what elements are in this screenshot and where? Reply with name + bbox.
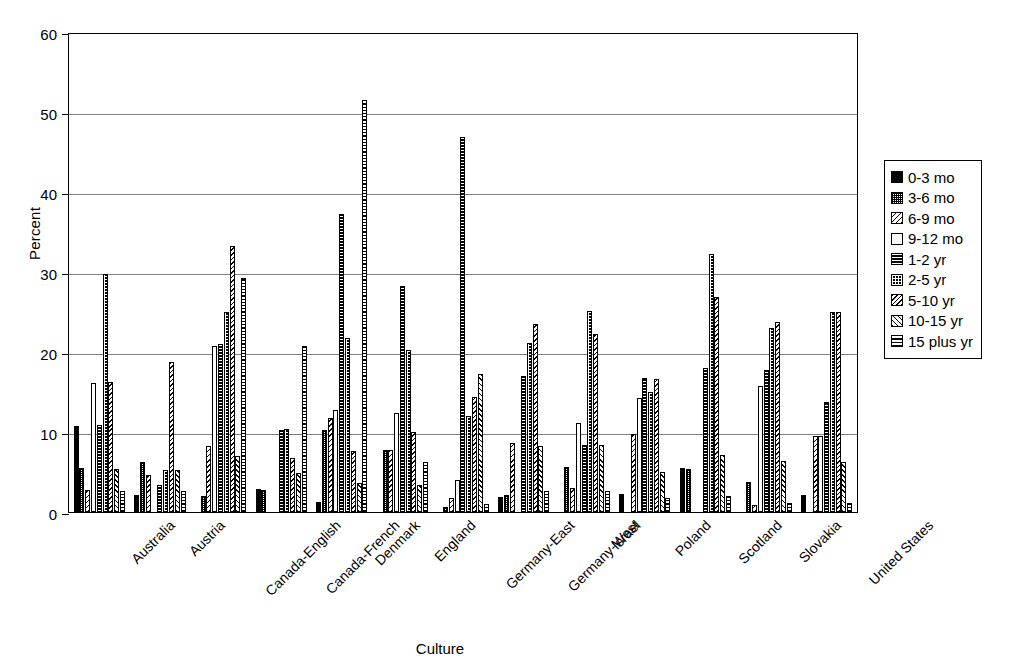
bar-group bbox=[372, 34, 433, 512]
plot-area: 0102030405060 bbox=[68, 33, 858, 513]
y-axis-tick-label: 10 bbox=[40, 426, 57, 443]
bar bbox=[241, 278, 246, 512]
bar bbox=[478, 374, 483, 512]
bar-group bbox=[614, 34, 675, 512]
bar bbox=[484, 504, 489, 512]
bar bbox=[74, 426, 79, 512]
x-axis-tick-label: Poland bbox=[671, 517, 713, 559]
bar bbox=[631, 434, 636, 512]
bar-group bbox=[311, 34, 372, 512]
bar bbox=[279, 430, 284, 512]
legend-label: 10-15 yr bbox=[908, 313, 963, 328]
legend-item: 15 plus yr bbox=[891, 331, 973, 352]
bar bbox=[383, 450, 388, 512]
bar bbox=[818, 436, 823, 512]
bar bbox=[841, 462, 846, 512]
bar bbox=[703, 368, 708, 512]
bar bbox=[504, 495, 509, 512]
y-axis-tick-label: 30 bbox=[40, 266, 57, 283]
bar bbox=[206, 446, 211, 512]
legend-label: 2-5 yr bbox=[908, 272, 946, 287]
bar bbox=[212, 346, 217, 512]
chart-canvas: Percent 0102030405060 AustraliaAustriaCa… bbox=[0, 0, 1029, 672]
bar bbox=[781, 461, 786, 512]
y-axis-tick bbox=[62, 354, 69, 355]
y-axis-tick-label: 60 bbox=[40, 26, 57, 43]
y-axis-tick-label: 40 bbox=[40, 186, 57, 203]
bar bbox=[108, 382, 113, 512]
legend-item: 3-6 mo bbox=[891, 188, 973, 209]
bar bbox=[388, 450, 393, 512]
bar bbox=[218, 344, 223, 512]
legend-item: 1-2 yr bbox=[891, 249, 973, 270]
bar bbox=[256, 489, 261, 512]
bar-group bbox=[493, 34, 554, 512]
bar-group bbox=[190, 34, 251, 512]
bar bbox=[181, 491, 186, 512]
bar bbox=[605, 491, 610, 512]
bar bbox=[91, 383, 96, 512]
bar bbox=[836, 312, 841, 512]
bar bbox=[230, 246, 235, 512]
bar bbox=[328, 418, 333, 512]
bar bbox=[120, 491, 125, 512]
bar-group bbox=[433, 34, 494, 512]
legend-label: 0-3 mo bbox=[908, 170, 955, 185]
bar-group bbox=[69, 34, 130, 512]
bar bbox=[103, 274, 108, 512]
legend: 0-3 mo3-6 mo6-9 mo9-12 mo1-2 yr2-5 yr5-1… bbox=[884, 160, 982, 359]
bar bbox=[538, 446, 543, 512]
bar bbox=[527, 343, 532, 512]
bar bbox=[224, 312, 229, 512]
legend-swatch-icon bbox=[891, 192, 903, 204]
bar bbox=[752, 505, 757, 512]
bar bbox=[333, 410, 338, 512]
legend-swatch-icon bbox=[891, 335, 903, 347]
bar bbox=[146, 475, 151, 512]
bar-group bbox=[675, 34, 736, 512]
bar bbox=[587, 311, 592, 512]
legend-item: 5-10 yr bbox=[891, 290, 973, 311]
bar bbox=[544, 491, 549, 512]
bar bbox=[449, 498, 454, 512]
bar bbox=[498, 497, 503, 512]
legend-swatch-icon bbox=[891, 171, 903, 183]
bar bbox=[357, 483, 362, 512]
bar bbox=[775, 322, 780, 512]
bar bbox=[764, 370, 769, 512]
legend-swatch-icon bbox=[891, 233, 903, 245]
legend-swatch-icon bbox=[891, 274, 903, 286]
bar bbox=[720, 455, 725, 512]
bar bbox=[157, 485, 162, 512]
bar bbox=[769, 328, 774, 512]
bar bbox=[637, 398, 642, 512]
bar-group bbox=[554, 34, 615, 512]
y-axis-tick bbox=[62, 194, 69, 195]
bar bbox=[235, 456, 240, 512]
y-axis-tick-label: 0 bbox=[49, 506, 57, 523]
y-axis-tick bbox=[62, 114, 69, 115]
bar bbox=[140, 462, 145, 512]
bar bbox=[455, 480, 460, 512]
bar bbox=[665, 498, 670, 512]
bar bbox=[709, 254, 714, 512]
bar bbox=[746, 482, 751, 512]
bar bbox=[261, 490, 266, 512]
bar-group bbox=[796, 34, 857, 512]
bar bbox=[593, 334, 598, 512]
bar bbox=[564, 467, 569, 512]
bar bbox=[362, 100, 367, 512]
bar bbox=[345, 338, 350, 512]
legend-label: 6-9 mo bbox=[908, 211, 955, 226]
bar bbox=[201, 496, 206, 512]
legend-label: 1-2 yr bbox=[908, 252, 946, 267]
bar bbox=[423, 462, 428, 512]
bar-groups bbox=[69, 34, 857, 512]
y-axis-tick-label: 50 bbox=[40, 106, 57, 123]
bar bbox=[85, 490, 90, 512]
legend-swatch-icon bbox=[891, 315, 903, 327]
bar bbox=[163, 470, 168, 512]
bar bbox=[466, 416, 471, 512]
bar-group bbox=[251, 34, 312, 512]
bar bbox=[296, 473, 301, 512]
